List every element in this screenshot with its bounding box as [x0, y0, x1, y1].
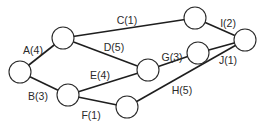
- node-n0: [9, 61, 31, 83]
- edge-label-b: B(3): [28, 90, 48, 102]
- node-n3: [137, 59, 159, 81]
- edge-label-c: C(1): [117, 14, 137, 26]
- activity-network-diagram: A(4)B(3)C(1)D(5)E(4)F(1)G(3)H(5)I(2)J(1): [0, 0, 266, 126]
- network-canvas: A(4)B(3)C(1)D(5)E(4)F(1)G(3)H(5)I(2)J(1): [0, 0, 266, 126]
- edge-label-i: I(2): [220, 17, 236, 29]
- edge-label-d: D(5): [104, 41, 124, 53]
- edge-label-j: J(1): [219, 54, 237, 66]
- edge-label-e: E(4): [90, 69, 110, 81]
- node-n4: [116, 96, 138, 118]
- node-n7: [234, 29, 256, 51]
- node-n6: [187, 42, 209, 64]
- node-n5: [184, 7, 206, 29]
- edge-label-g: G(3): [162, 51, 183, 63]
- edge-label-a: A(4): [23, 44, 43, 56]
- node-n1: [52, 27, 74, 49]
- edge-label-f: F(1): [81, 109, 100, 121]
- node-n2: [57, 84, 79, 106]
- edge-label-h: H(5): [172, 84, 192, 96]
